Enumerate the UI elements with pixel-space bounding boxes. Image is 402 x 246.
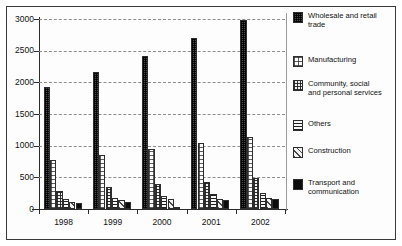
y-tick-label: 2000: [15, 78, 34, 87]
bar: [223, 200, 229, 209]
legend-item: Community, social and personal services: [293, 80, 393, 97]
legend-item-label: Wholesale and retail trade: [308, 12, 377, 29]
bar: [174, 207, 180, 209]
chart-legend: Wholesale and retail tradeManufacturingC…: [293, 12, 393, 217]
y-tick-label: 500: [20, 173, 34, 182]
gridline: [39, 114, 285, 115]
legend-item: Wholesale and retail trade: [293, 12, 393, 29]
legend-item: Transport and communication: [293, 179, 393, 196]
legend-swatch-icon: [293, 12, 303, 23]
y-axis-labels: 050010001500200025003000: [6, 19, 34, 209]
x-tick-mark: [88, 209, 89, 214]
legend-swatch-icon: [293, 120, 303, 131]
y-tick-label: 1000: [15, 141, 34, 150]
legend-swatch-icon: [293, 147, 303, 158]
gridline: [39, 19, 285, 20]
chart-figure: 050010001500200025003000 199819992000200…: [0, 0, 402, 246]
legend-item: Others: [293, 120, 393, 131]
plot-area: [39, 19, 285, 209]
x-tick-label: 2002: [236, 217, 285, 227]
gridline: [39, 51, 285, 52]
y-tick-mark: [34, 114, 39, 115]
bar: [272, 199, 278, 209]
y-tick-label: 1500: [15, 110, 34, 119]
y-tick-mark: [34, 177, 39, 178]
y-tick-mark: [34, 51, 39, 52]
x-tick-mark: [187, 209, 188, 214]
x-tick-label: 1999: [88, 217, 137, 227]
y-tick-mark: [34, 146, 39, 147]
x-tick-label: 2001: [187, 217, 236, 227]
legend-swatch-icon: [293, 179, 303, 190]
x-tick-label: 2000: [137, 217, 186, 227]
gridline: [39, 82, 285, 83]
x-tick-mark: [39, 209, 40, 214]
bar: [125, 202, 131, 209]
legend-item: Construction: [293, 147, 393, 158]
legend-item-label: Community, social and personal services: [308, 80, 382, 97]
x-tick-label: 1998: [39, 217, 88, 227]
legend-swatch-icon: [293, 80, 303, 91]
legend-swatch-icon: [293, 56, 303, 67]
legend-item-label: Others: [308, 120, 331, 129]
x-axis-line: [32, 209, 288, 210]
legend-item-label: Manufacturing: [308, 56, 356, 65]
legend-item-label: Construction: [308, 147, 351, 156]
legend-item-label: Transport and communication: [308, 179, 359, 196]
legend-divider: [286, 13, 287, 211]
x-tick-mark: [236, 209, 237, 214]
bar: [76, 203, 82, 209]
legend-item: Manufacturing: [293, 56, 393, 67]
y-tick-mark: [34, 19, 39, 20]
y-tick-label: 3000: [15, 15, 34, 24]
y-tick-mark: [34, 82, 39, 83]
x-tick-mark: [137, 209, 138, 214]
y-tick-label: 2500: [15, 46, 34, 55]
